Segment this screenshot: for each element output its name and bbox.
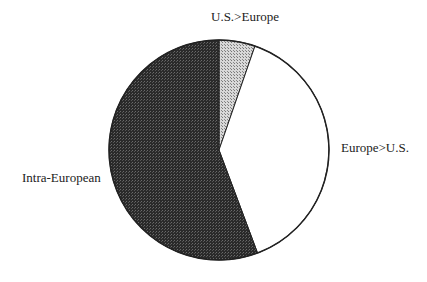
label-us-europe: U.S.>Europe: [211, 9, 279, 25]
label-intra-european: Intra-European: [22, 170, 101, 186]
label-europe-us: Europe>U.S.: [341, 140, 409, 156]
